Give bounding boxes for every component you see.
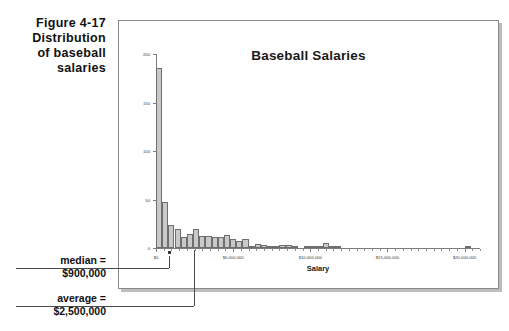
y-axis-tick-label: 0 bbox=[148, 246, 150, 251]
y-axis-tick bbox=[153, 151, 157, 152]
x-axis-tick-label: $5,000,000 bbox=[223, 255, 244, 260]
histogram-bar bbox=[292, 246, 298, 248]
median-leader-horizontal bbox=[16, 268, 169, 269]
figure-caption-line-1: Figure 4-17 bbox=[0, 16, 106, 31]
median-axis-marker bbox=[168, 251, 171, 254]
y-axis-tick-label: 50 bbox=[145, 197, 150, 202]
x-axis-minor-tick bbox=[326, 249, 327, 251]
x-axis-minor-tick bbox=[210, 249, 211, 251]
x-axis-minor-tick bbox=[287, 249, 288, 251]
x-axis-minor-tick bbox=[426, 249, 427, 251]
x-axis-minor-tick bbox=[341, 249, 342, 251]
x-axis-tick bbox=[156, 248, 157, 252]
x-axis-tick-label: $0 bbox=[154, 255, 159, 260]
x-axis-tick bbox=[310, 248, 311, 252]
x-axis-minor-tick bbox=[295, 249, 296, 251]
y-axis-tick bbox=[153, 54, 157, 55]
x-axis-minor-tick bbox=[434, 249, 435, 251]
average-leader-vertical bbox=[194, 250, 195, 306]
x-axis-minor-tick bbox=[225, 249, 226, 251]
x-axis-minor-tick bbox=[480, 249, 481, 251]
x-axis-minor-tick bbox=[171, 249, 172, 251]
x-axis-minor-tick bbox=[349, 249, 350, 251]
median-annotation: median = $900,000 bbox=[10, 254, 106, 280]
x-axis-minor-tick bbox=[164, 249, 165, 251]
x-axis-minor-tick bbox=[179, 249, 180, 251]
x-axis-tick-label: $15,000,000 bbox=[376, 255, 399, 260]
figure-caption-line-3: of baseball bbox=[0, 46, 106, 61]
y-axis-tick-label: 100 bbox=[143, 149, 150, 154]
x-axis-title: Salary bbox=[156, 264, 480, 273]
x-axis-minor-tick bbox=[395, 249, 396, 251]
x-axis-minor-tick bbox=[441, 249, 442, 251]
x-axis-minor-tick bbox=[380, 249, 381, 251]
x-axis-minor-tick bbox=[195, 249, 196, 251]
x-axis-minor-tick bbox=[249, 249, 250, 251]
y-axis-tick-label: 200 bbox=[143, 52, 150, 57]
x-axis-minor-tick bbox=[357, 249, 358, 251]
x-axis-minor-tick bbox=[264, 249, 265, 251]
median-annotation-label: median = bbox=[10, 254, 106, 267]
x-axis-minor-tick bbox=[279, 249, 280, 251]
figure-caption-line-2: Distribution bbox=[0, 31, 106, 46]
y-axis-tick bbox=[153, 103, 157, 104]
x-axis-minor-tick bbox=[241, 249, 242, 251]
x-axis-minor-tick bbox=[403, 249, 404, 251]
x-axis-tick bbox=[233, 248, 234, 252]
x-axis-tick-label: $10,000,000 bbox=[299, 255, 322, 260]
x-axis-tick bbox=[387, 248, 388, 252]
x-axis-minor-tick bbox=[457, 249, 458, 251]
y-axis-tick bbox=[153, 200, 157, 201]
x-axis-minor-tick bbox=[418, 249, 419, 251]
x-axis-tick bbox=[465, 248, 466, 252]
average-annotation-label: average = bbox=[10, 292, 106, 305]
x-axis-minor-tick bbox=[372, 249, 373, 251]
figure-caption: Figure 4-17 Distribution of baseball sal… bbox=[0, 16, 106, 76]
y-axis-tick-label: 150 bbox=[143, 100, 150, 105]
average-annotation: average = $2,500,000 bbox=[10, 292, 106, 318]
chart-frame: Baseball Salaries 050100150200 $0$5,000,… bbox=[118, 20, 499, 289]
x-axis-minor-tick bbox=[187, 249, 188, 251]
histogram-bar bbox=[335, 246, 341, 248]
x-axis-minor-tick bbox=[449, 249, 450, 251]
figure-caption-line-4: salaries bbox=[0, 61, 106, 76]
x-axis-minor-tick bbox=[256, 249, 257, 251]
x-axis-minor-tick bbox=[202, 249, 203, 251]
x-axis-minor-tick bbox=[318, 249, 319, 251]
average-leader-horizontal bbox=[16, 306, 194, 307]
x-axis-minor-tick bbox=[364, 249, 365, 251]
x-axis-minor-tick bbox=[333, 249, 334, 251]
x-axis-minor-tick bbox=[272, 249, 273, 251]
x-axis-minor-tick bbox=[411, 249, 412, 251]
x-axis-minor-tick bbox=[472, 249, 473, 251]
x-axis-minor-tick bbox=[218, 249, 219, 251]
x-axis-minor-tick bbox=[303, 249, 304, 251]
histogram-plot-area: 050100150200 $0$5,000,000$10,000,000$15,… bbox=[156, 54, 480, 249]
median-leader-vertical bbox=[169, 256, 170, 268]
x-axis-tick-label: $20,000,000 bbox=[453, 255, 476, 260]
